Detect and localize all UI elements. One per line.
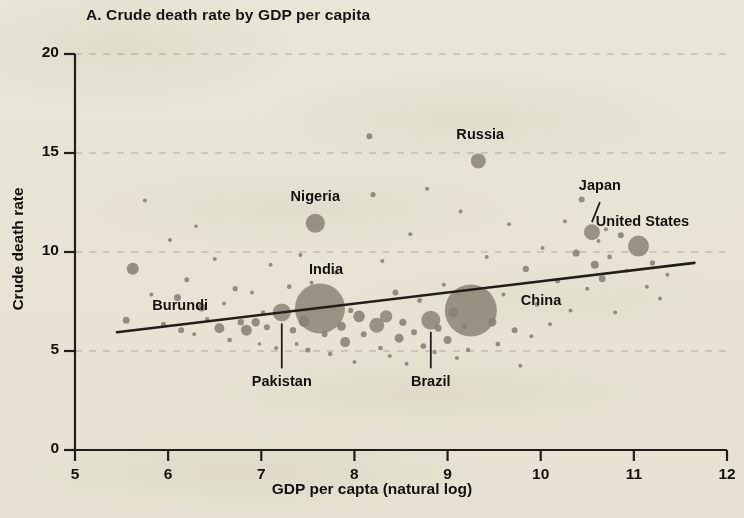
data-point <box>378 346 383 351</box>
data-points <box>123 133 670 368</box>
data-point <box>541 246 545 250</box>
data-point <box>251 318 259 326</box>
data-point <box>353 311 365 323</box>
data-point <box>650 260 655 265</box>
data-point <box>366 133 372 139</box>
data-point <box>352 360 356 364</box>
data-point <box>238 319 244 325</box>
data-point <box>233 286 238 291</box>
data-point <box>411 329 417 335</box>
data-point <box>599 275 606 282</box>
data-point <box>579 197 585 203</box>
data-point <box>417 298 422 303</box>
data-point <box>645 285 649 289</box>
data-point <box>466 348 470 352</box>
data-point-labeled <box>471 153 486 168</box>
data-point <box>573 249 580 256</box>
data-point <box>194 224 198 228</box>
data-point <box>149 293 153 297</box>
data-point <box>455 356 459 360</box>
data-point <box>328 352 332 356</box>
data-point-labeled <box>628 236 649 257</box>
data-point <box>665 273 669 277</box>
data-point <box>392 290 398 296</box>
data-point <box>222 301 226 305</box>
data-point <box>432 350 436 354</box>
data-point <box>380 259 384 263</box>
scatter-plot <box>0 0 744 518</box>
data-point <box>618 232 624 238</box>
data-point <box>269 263 273 267</box>
data-point <box>485 255 489 259</box>
point-label: Japan <box>579 177 621 193</box>
data-point <box>501 293 505 297</box>
data-point <box>399 319 406 326</box>
data-point <box>658 297 662 301</box>
data-point <box>380 310 392 322</box>
data-point <box>613 310 617 314</box>
point-label: Nigeria <box>291 188 341 204</box>
data-point <box>585 287 589 291</box>
x-axis-title: GDP per capta (natural log) <box>0 480 744 498</box>
data-point <box>348 308 353 313</box>
data-point <box>274 346 278 350</box>
data-point <box>495 342 500 347</box>
data-point <box>548 322 552 326</box>
axis-ticks <box>64 54 727 461</box>
data-point <box>523 266 529 272</box>
data-point <box>421 343 427 349</box>
data-point <box>518 364 522 368</box>
data-point-labeled <box>123 317 130 324</box>
data-point <box>442 283 446 287</box>
data-point <box>127 263 139 275</box>
data-point <box>168 238 172 242</box>
data-point <box>507 222 511 226</box>
data-point <box>591 261 599 269</box>
data-point <box>178 327 184 333</box>
data-point <box>192 332 196 336</box>
data-point <box>395 334 404 343</box>
y-axis-title: Crude death rate <box>9 149 27 349</box>
data-point-labeled <box>421 311 440 330</box>
point-label: China <box>521 292 562 308</box>
data-point <box>213 257 217 261</box>
data-point <box>143 199 147 203</box>
data-point <box>258 342 262 346</box>
data-point <box>405 362 409 366</box>
point-label: United States <box>596 213 689 229</box>
data-point <box>214 323 224 333</box>
data-point <box>459 209 463 213</box>
data-point <box>241 325 252 336</box>
data-point <box>298 253 302 257</box>
data-point <box>569 308 573 312</box>
point-label: Burundi <box>152 297 208 313</box>
data-point <box>264 324 270 330</box>
point-label: Pakistan <box>252 373 312 389</box>
data-point-labeled <box>306 214 325 233</box>
data-point <box>295 342 299 346</box>
point-label: India <box>309 261 343 277</box>
data-point <box>340 337 350 347</box>
data-point <box>227 338 232 343</box>
data-point <box>444 336 452 344</box>
data-point <box>184 277 189 282</box>
data-point <box>563 219 567 223</box>
y-tick-label: 20 <box>17 43 59 61</box>
data-point <box>290 327 296 333</box>
data-point <box>305 347 310 352</box>
data-point <box>529 334 533 338</box>
point-label: Russia <box>456 126 504 142</box>
data-point <box>250 291 254 295</box>
data-point <box>370 192 375 197</box>
data-point <box>512 327 518 333</box>
data-point <box>361 331 367 337</box>
data-point <box>287 284 292 289</box>
data-point <box>310 281 314 285</box>
label-leader-lines <box>282 202 600 368</box>
data-point <box>408 232 412 236</box>
data-point <box>607 255 612 260</box>
data-point <box>596 239 600 243</box>
data-point <box>388 354 392 358</box>
data-point <box>425 187 429 191</box>
y-tick-label: 0 <box>17 439 59 457</box>
